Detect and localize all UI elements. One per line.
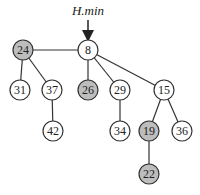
node-key: 31 [14,83,26,97]
nodes: 24831372629154234193622 [10,40,192,184]
node-key: 29 [114,83,126,97]
node-24: 24 [13,40,33,60]
node-key: 36 [176,124,188,138]
node-15: 15 [154,80,174,100]
node-key: 37 [46,83,58,97]
node-19: 19 [139,121,159,141]
hmin-label: H.min [71,3,104,18]
edges [20,50,182,174]
node-34: 34 [110,121,130,141]
node-key: 19 [143,124,155,138]
node-key: 15 [158,83,170,97]
node-36: 36 [172,121,192,141]
node-key: 8 [85,43,91,57]
node-29: 29 [110,80,130,100]
node-37: 37 [42,80,62,100]
node-key: 26 [82,83,94,97]
node-26: 26 [78,80,98,100]
node-8: 8 [78,40,98,60]
node-key: 24 [17,43,29,57]
node-key: 42 [47,124,59,138]
node-42: 42 [43,121,63,141]
node-22: 22 [139,164,159,184]
fibonacci-heap-diagram: H.min 24831372629154234193622 [0,0,200,195]
node-31: 31 [10,80,30,100]
node-key: 34 [114,124,126,138]
node-key: 22 [143,167,155,181]
